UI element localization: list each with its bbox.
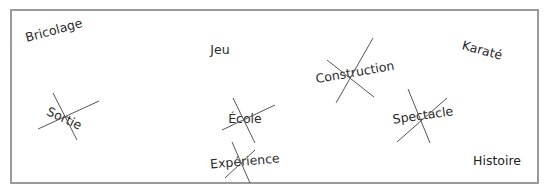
word-bricolage-label: Bricolage: [24, 15, 85, 45]
worksheet-canvas: Bricolage Jeu Construction Karaté Sortie: [0, 0, 547, 193]
word-construction: Construction: [314, 38, 395, 103]
word-experience: Expérience: [210, 142, 281, 183]
word-bricolage: Bricolage: [24, 15, 85, 45]
word-spectacle-label: Spectacle: [392, 103, 455, 126]
word-jeu-label: Jeu: [209, 42, 229, 57]
word-ecole: École: [222, 98, 275, 143]
word-histoire: Histoire: [473, 153, 521, 168]
worksheet-svg: Bricolage Jeu Construction Karaté Sortie: [0, 0, 547, 193]
word-sortie: Sortie: [38, 93, 99, 140]
word-sortie-label: Sortie: [45, 104, 85, 133]
word-karate-label: Karaté: [461, 37, 505, 62]
word-spectacle: Spectacle: [392, 89, 455, 143]
word-jeu: Jeu: [209, 42, 229, 57]
word-histoire-label: Histoire: [473, 153, 521, 168]
word-experience-label: Expérience: [210, 150, 281, 171]
word-karate: Karaté: [461, 37, 505, 62]
